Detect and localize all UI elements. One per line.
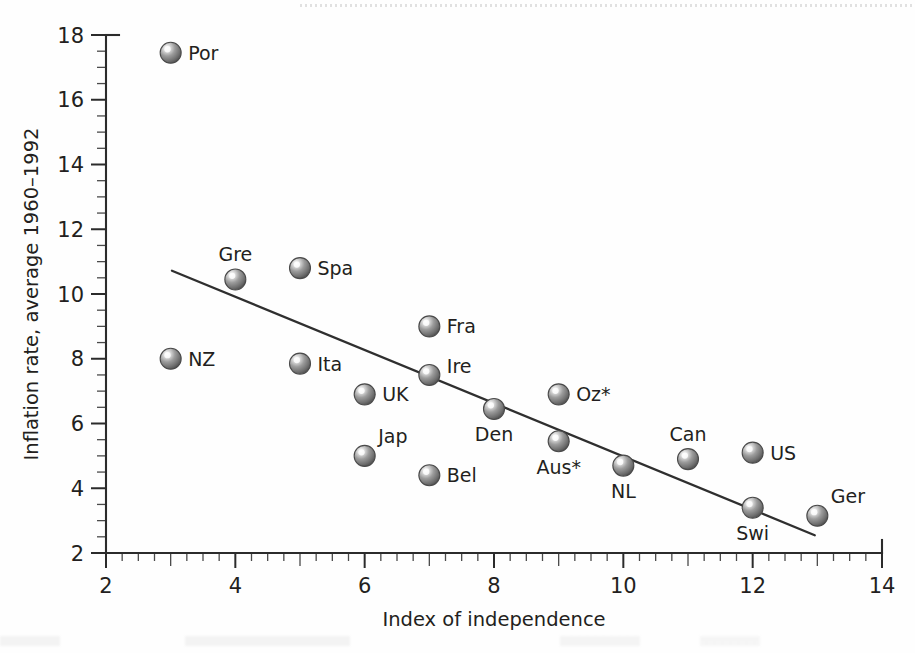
marker-highlight xyxy=(164,352,170,358)
point-marker xyxy=(742,497,763,518)
data-point: Gre xyxy=(218,243,252,290)
point-label: US xyxy=(770,442,796,464)
point-label: Por xyxy=(188,42,218,64)
y-tick-label: 8 xyxy=(71,347,84,371)
point-marker xyxy=(419,364,440,385)
point-marker xyxy=(225,269,246,290)
major-ticks xyxy=(91,35,882,568)
point-marker xyxy=(548,431,569,452)
point-label: Oz* xyxy=(576,383,610,405)
point-marker xyxy=(354,384,375,405)
scatter-plot-canvas: 246810121424681012141618 PorGreSpaFraNZI… xyxy=(0,0,915,653)
x-tick-label: 14 xyxy=(869,574,896,598)
point-label: Ire xyxy=(447,355,472,377)
x-tick-label: 6 xyxy=(358,574,371,598)
point-label: Can xyxy=(670,423,707,445)
y-tick-label: 14 xyxy=(57,153,84,177)
point-marker xyxy=(742,442,763,463)
point-marker xyxy=(160,42,181,63)
point-label: Jap xyxy=(377,425,407,447)
axis-titles: Index of independenceInflation rate, ave… xyxy=(20,128,606,631)
x-tick-label: 2 xyxy=(99,574,112,598)
y-axis-title: Inflation rate, average 1960–1992 xyxy=(20,128,43,461)
point-marker xyxy=(484,398,505,419)
data-point: NZ xyxy=(160,348,215,370)
data-point: Den xyxy=(475,398,513,445)
marker-highlight xyxy=(423,368,429,374)
marker-highlight xyxy=(617,459,623,465)
data-point: Ger xyxy=(807,485,865,526)
point-label: Swi xyxy=(736,522,769,544)
y-tick-label: 2 xyxy=(71,542,84,566)
marker-highlight xyxy=(358,449,364,455)
data-point: Aus* xyxy=(536,431,580,478)
data-point: Bel xyxy=(419,464,477,486)
point-label: Gre xyxy=(218,243,252,265)
marker-highlight xyxy=(294,357,300,363)
data-point: Can xyxy=(670,423,707,470)
point-label: Bel xyxy=(447,464,477,486)
point-marker xyxy=(160,348,181,369)
point-marker xyxy=(678,449,699,470)
y-tick-label: 10 xyxy=(57,283,84,307)
data-point: Por xyxy=(160,42,218,64)
marker-highlight xyxy=(358,388,364,394)
data-point: Spa xyxy=(290,257,354,279)
marker-highlight xyxy=(423,320,429,326)
marker-highlight xyxy=(423,469,429,475)
y-tick-label: 6 xyxy=(71,412,84,436)
y-tick-label: 18 xyxy=(57,24,84,48)
x-tick-label: 8 xyxy=(487,574,500,598)
scan-artifact-bottom xyxy=(0,636,915,646)
data-point: Jap xyxy=(354,425,407,466)
tick-labels: 246810121424681012141618 xyxy=(57,24,895,599)
data-point: Ita xyxy=(290,353,343,375)
marker-highlight xyxy=(552,388,558,394)
data-point: NL xyxy=(611,455,636,502)
marker-highlight xyxy=(552,435,558,441)
point-label: NZ xyxy=(188,348,215,370)
scan-artifact-top xyxy=(300,4,915,7)
point-label: Den xyxy=(475,423,513,445)
point-marker xyxy=(548,384,569,405)
x-tick-label: 12 xyxy=(739,574,766,598)
x-axis-title: Index of independence xyxy=(382,608,605,631)
point-label: Ita xyxy=(318,353,343,375)
point-label: UK xyxy=(382,383,409,405)
marker-highlight xyxy=(746,446,752,452)
data-point: UK xyxy=(354,383,409,405)
marker-highlight xyxy=(294,261,300,267)
data-point: US xyxy=(742,442,796,464)
chart-figure: 246810121424681012141618 PorGreSpaFraNZI… xyxy=(0,0,915,653)
point-marker xyxy=(613,455,634,476)
minor-ticks xyxy=(97,51,866,566)
y-tick-label: 16 xyxy=(57,88,84,112)
marker-highlight xyxy=(229,273,235,279)
y-tick-label: 4 xyxy=(71,477,84,501)
marker-highlight xyxy=(164,46,170,52)
marker-highlight xyxy=(746,501,752,507)
data-point: Fra xyxy=(419,315,476,337)
x-tick-label: 10 xyxy=(610,574,637,598)
point-marker xyxy=(290,353,311,374)
point-marker xyxy=(354,445,375,466)
point-label: Ger xyxy=(831,485,865,507)
point-marker xyxy=(290,258,311,279)
data-points: PorGreSpaFraNZItaIreUKOz*DenAus*JapUSCan… xyxy=(160,42,865,544)
data-point: Oz* xyxy=(548,383,610,405)
x-tick-label: 4 xyxy=(229,574,242,598)
point-label: Aus* xyxy=(536,456,580,478)
point-marker xyxy=(807,505,828,526)
point-label: Fra xyxy=(447,315,476,337)
point-marker xyxy=(419,465,440,486)
point-label: NL xyxy=(611,480,636,502)
marker-highlight xyxy=(682,452,688,458)
y-tick-label: 12 xyxy=(57,218,84,242)
point-label: Spa xyxy=(318,257,354,279)
axis-lines xyxy=(106,35,882,553)
marker-highlight xyxy=(811,509,817,515)
marker-highlight xyxy=(488,402,494,408)
point-marker xyxy=(419,316,440,337)
data-point: Ire xyxy=(419,355,472,386)
